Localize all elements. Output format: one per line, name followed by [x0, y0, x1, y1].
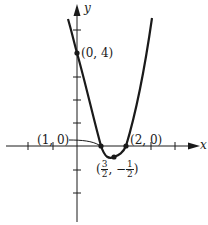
root1-leader-line [69, 140, 99, 145]
vertex-y-fraction: 12 [126, 160, 134, 179]
y-intercept-label: (0, 4) [81, 47, 113, 59]
x-axis-label: x [200, 139, 207, 151]
vertex-label: (32, −12) [96, 160, 139, 179]
root2-point [123, 143, 128, 148]
vertex-separator: , − [108, 162, 126, 176]
y-axis-label: y [84, 2, 91, 14]
vertex-point [111, 154, 116, 159]
graph-canvas [0, 0, 208, 225]
vertex-y-denominator: 2 [126, 170, 134, 179]
y-axis-arrow-icon [74, 4, 81, 16]
root1-point [98, 143, 103, 148]
root2-label: (2, 0) [130, 134, 162, 146]
vertex-close-paren: ) [134, 162, 139, 176]
x-axis-arrow-icon [188, 143, 200, 150]
y-intercept-point [74, 50, 79, 55]
root1-label: (1, 0) [37, 134, 69, 146]
